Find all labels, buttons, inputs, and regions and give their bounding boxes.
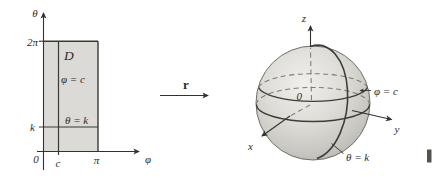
figure-canvas: θ 2π k 0 c π φ D φ = c θ = k r z bbox=[0, 0, 432, 182]
two-pi-tick-label: 2π bbox=[27, 36, 39, 48]
domain-plot: θ 2π k 0 c π φ D φ = c θ = k bbox=[27, 7, 151, 170]
map-arrow-label: r bbox=[183, 77, 189, 92]
sphere-origin-label: 0 bbox=[297, 90, 303, 102]
k-tick-label: k bbox=[30, 121, 36, 133]
c-tick-label: c bbox=[56, 157, 61, 169]
sphere-plot: z 0 x y φ = c θ = k bbox=[247, 12, 400, 163]
theta-axis-label: θ bbox=[32, 7, 38, 19]
pi-tick-label: π bbox=[94, 154, 100, 166]
origin-label: 0 bbox=[33, 153, 39, 165]
theta-line-label: θ = k bbox=[65, 114, 89, 126]
figure-end-marker bbox=[427, 150, 432, 163]
map-arrow: r bbox=[160, 77, 208, 96]
region-D-label: D bbox=[63, 48, 74, 63]
z-axis-label: z bbox=[301, 12, 307, 24]
x-axis-label: x bbox=[247, 140, 253, 152]
y-axis-label: y bbox=[394, 123, 400, 135]
phi-axis-label: φ bbox=[145, 153, 151, 165]
phi-line-label: φ = c bbox=[61, 73, 85, 85]
sphere bbox=[256, 46, 370, 160]
phi-curve-label: φ = c bbox=[374, 85, 398, 97]
theta-curve-label: θ = k bbox=[346, 151, 370, 163]
figure-svg: θ 2π k 0 c π φ D φ = c θ = k r z bbox=[0, 0, 432, 182]
